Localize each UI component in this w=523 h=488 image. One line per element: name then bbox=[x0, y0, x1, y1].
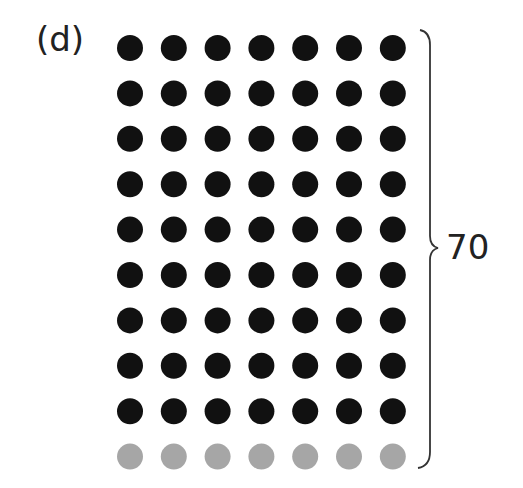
filled-dot bbox=[205, 35, 231, 61]
filled-dot bbox=[380, 217, 406, 243]
filled-dot bbox=[205, 262, 231, 288]
empty-dot bbox=[292, 444, 318, 470]
filled-dot bbox=[292, 35, 318, 61]
filled-dot bbox=[205, 126, 231, 152]
filled-dot bbox=[336, 398, 362, 424]
filled-dot bbox=[336, 217, 362, 243]
filled-dot bbox=[380, 262, 406, 288]
filled-dot bbox=[117, 217, 143, 243]
filled-dot bbox=[248, 398, 274, 424]
filled-dot bbox=[292, 217, 318, 243]
empty-dot bbox=[248, 444, 274, 470]
filled-dot bbox=[117, 80, 143, 106]
filled-dot bbox=[161, 35, 187, 61]
empty-dot bbox=[205, 444, 231, 470]
filled-dot bbox=[248, 35, 274, 61]
filled-dot bbox=[248, 171, 274, 197]
filled-dot bbox=[248, 126, 274, 152]
filled-dot bbox=[380, 171, 406, 197]
filled-dot bbox=[117, 171, 143, 197]
filled-dot bbox=[161, 126, 187, 152]
empty-dot bbox=[161, 444, 187, 470]
filled-dot bbox=[336, 262, 362, 288]
filled-dot bbox=[161, 353, 187, 379]
filled-dot bbox=[205, 353, 231, 379]
filled-dot bbox=[205, 398, 231, 424]
empty-dot bbox=[380, 444, 406, 470]
filled-dot bbox=[161, 262, 187, 288]
filled-dot bbox=[161, 217, 187, 243]
filled-dot bbox=[336, 307, 362, 333]
filled-dot bbox=[205, 80, 231, 106]
total-label: 70 bbox=[446, 230, 489, 264]
filled-dot bbox=[380, 126, 406, 152]
filled-dot bbox=[248, 353, 274, 379]
filled-dot bbox=[336, 80, 362, 106]
filled-dot bbox=[248, 217, 274, 243]
filled-dot bbox=[292, 307, 318, 333]
filled-dot bbox=[117, 35, 143, 61]
dot-grid bbox=[0, 0, 523, 488]
filled-dot bbox=[292, 171, 318, 197]
empty-dot bbox=[336, 444, 362, 470]
filled-dot bbox=[117, 398, 143, 424]
filled-dot bbox=[117, 353, 143, 379]
filled-dot bbox=[248, 307, 274, 333]
filled-dot bbox=[161, 398, 187, 424]
filled-dot bbox=[205, 217, 231, 243]
filled-dot bbox=[205, 307, 231, 333]
filled-dot bbox=[292, 262, 318, 288]
filled-dot bbox=[380, 353, 406, 379]
filled-dot bbox=[336, 171, 362, 197]
filled-dot bbox=[292, 398, 318, 424]
filled-dot bbox=[380, 80, 406, 106]
filled-dot bbox=[161, 171, 187, 197]
filled-dot bbox=[205, 171, 231, 197]
filled-dot bbox=[380, 398, 406, 424]
filled-dot bbox=[248, 80, 274, 106]
filled-dot bbox=[117, 126, 143, 152]
filled-dot bbox=[336, 126, 362, 152]
filled-dot bbox=[292, 126, 318, 152]
filled-dot bbox=[117, 307, 143, 333]
filled-dot bbox=[380, 35, 406, 61]
filled-dot bbox=[161, 80, 187, 106]
filled-dot bbox=[292, 80, 318, 106]
filled-dot bbox=[292, 353, 318, 379]
filled-dot bbox=[380, 307, 406, 333]
filled-dot bbox=[117, 262, 143, 288]
filled-dot bbox=[248, 262, 274, 288]
filled-dot bbox=[336, 35, 362, 61]
empty-dot bbox=[117, 444, 143, 470]
filled-dot bbox=[161, 307, 187, 333]
brace-icon bbox=[418, 30, 438, 468]
filled-dot bbox=[336, 353, 362, 379]
